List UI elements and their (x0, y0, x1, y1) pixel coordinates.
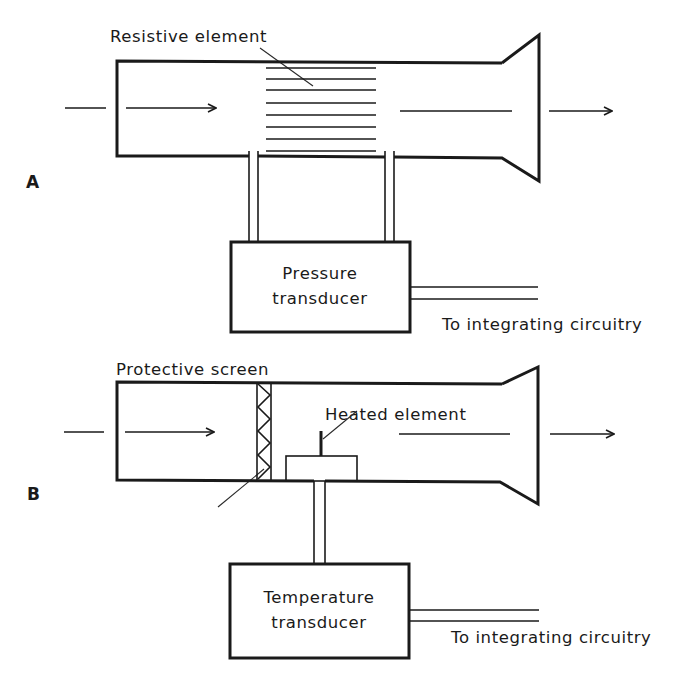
temperature-transducer-label-line2: transducer (271, 613, 366, 632)
resistive-element-label: Resistive element (110, 27, 267, 46)
pressure-tap-upstream (249, 151, 258, 242)
pressure-transducer-box (231, 242, 410, 332)
panel-a-label: A (26, 172, 40, 192)
pressure-transducer-label-line1: Pressure (282, 264, 357, 283)
resistive-element-leader-line (260, 48, 313, 86)
heated-element-housing (286, 456, 357, 481)
heated-element-label: Heated element (325, 405, 466, 424)
temperature-transducer-label-line1: Temperature (262, 588, 374, 607)
panel-b-label: B (27, 484, 40, 504)
output-label-a: To integrating circuitry (441, 315, 642, 334)
pressure-tap-downstream (385, 151, 394, 242)
temperature-signal-stem (314, 481, 325, 564)
panel-a: A Resistive element (26, 27, 642, 334)
temperature-transducer-box (230, 564, 409, 658)
panel-b: B Protective screen Heated element Tempe (27, 360, 651, 658)
output-wires-a (410, 287, 538, 299)
pneumotachograph-diagram: A Resistive element (0, 0, 683, 684)
resistive-element (266, 68, 376, 151)
protective-screen (257, 383, 271, 480)
protective-screen-label: Protective screen (116, 360, 269, 379)
pressure-transducer-label-line2: transducer (272, 289, 367, 308)
output-wires-b (409, 610, 539, 621)
output-label-b: To integrating circuitry (450, 628, 651, 647)
